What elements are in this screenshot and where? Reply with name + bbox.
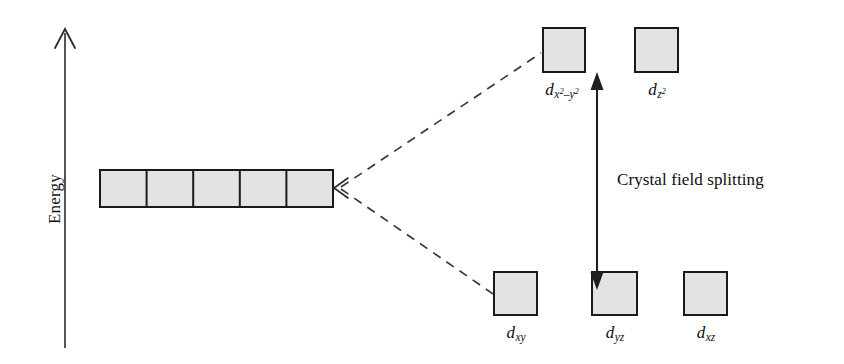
crystal-field-splitting-diagram: Energy dx2–y2 dz2 dxy dyz dxz Crystal fi… [0, 0, 844, 364]
sup-2: 2 [662, 86, 666, 96]
orbital-label-d-xy: dxy [479, 323, 553, 343]
orbital-label-d-x2-y2: dx2–y2 [512, 80, 612, 100]
degenerate-orbital-set [100, 170, 333, 207]
orbital-subscript-xz: xz [706, 331, 716, 343]
orbital-subscript-xy: xy [515, 331, 525, 343]
splitting-arrow [591, 72, 604, 290]
correlation-line-upper [341, 53, 541, 187]
orbital-symbol-d: d [648, 80, 657, 99]
energy-axis-label: Energy [45, 139, 65, 259]
orbital-label-d-z2: dz2 [622, 80, 692, 100]
orbital-symbol-d: d [697, 323, 706, 342]
orbital-label-d-yz: dyz [578, 323, 652, 343]
orbital-box-d-x2-y2 [543, 28, 585, 72]
lower-orbital-boxes [494, 272, 727, 315]
correlation-lines [334, 53, 541, 296]
orbital-subscript-z2: z2 [657, 88, 666, 100]
upper-orbital-boxes [543, 28, 678, 72]
crystal-field-splitting-label: Crystal field splitting [617, 170, 764, 190]
degenerate-set-outline [100, 170, 333, 207]
orbital-symbol-d: d [545, 80, 554, 99]
orbital-label-d-xz: dxz [669, 323, 743, 343]
orbital-subscript-x2-y2: x2–y2 [554, 88, 578, 100]
correlation-origin-marker [334, 178, 348, 198]
orbital-box-d-xz [684, 272, 727, 315]
orbital-box-d-z2 [635, 28, 678, 72]
orbital-symbol-d: d [606, 323, 615, 342]
orbital-box-d-xy [494, 272, 537, 315]
correlation-line-lower [341, 189, 496, 296]
sup-2b: 2 [574, 86, 578, 96]
orbital-subscript-yz: yz [615, 331, 625, 343]
